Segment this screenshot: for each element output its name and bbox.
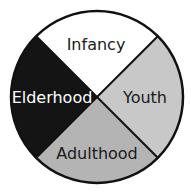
label-youth: Youth	[122, 88, 167, 107]
label-infancy: Infancy	[67, 35, 126, 54]
label-adulthood: Adulthood	[56, 144, 138, 163]
label-elderhood: Elderhood	[12, 88, 93, 107]
life-stages-diagram: Infancy Youth Adulthood Elderhood	[0, 0, 191, 195]
